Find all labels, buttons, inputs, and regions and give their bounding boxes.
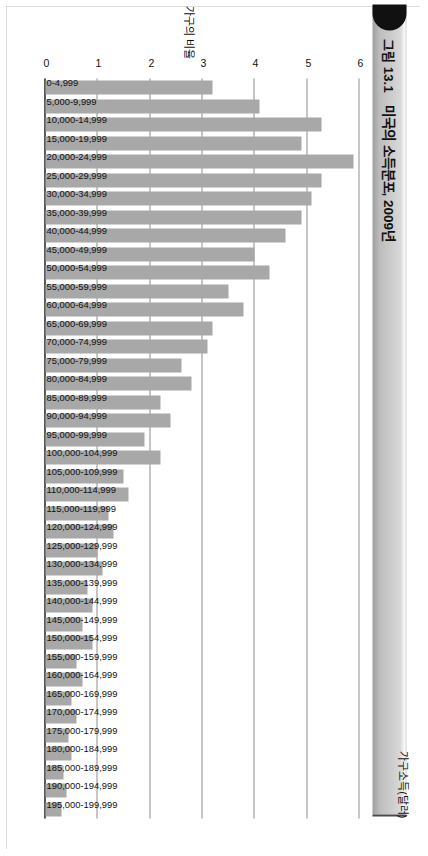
- bar: [45, 709, 76, 723]
- bar-slot: [45, 189, 358, 208]
- bar-slot: [45, 115, 358, 134]
- bar-slot: [45, 522, 358, 541]
- y-axis-title: 가구의 비율: [20, 12, 358, 52]
- bar: [45, 691, 71, 705]
- bar: [45, 284, 228, 298]
- bar-slot: [45, 633, 358, 652]
- bar: [45, 321, 212, 335]
- bar: [45, 173, 321, 187]
- bar-slot: [45, 485, 358, 504]
- bar-slot: [45, 744, 358, 763]
- bar: [45, 154, 353, 168]
- bar: [45, 191, 311, 205]
- bar-slot: [45, 541, 358, 560]
- bar: [45, 598, 92, 612]
- bar-slot: [45, 134, 358, 153]
- bar-slot: [45, 448, 358, 467]
- bar: [45, 765, 63, 779]
- figure-title-cap-icon: [372, 4, 406, 30]
- bar: [45, 228, 285, 242]
- bar-slot: [45, 245, 358, 264]
- bar: [45, 302, 243, 316]
- bar-chart: [44, 78, 358, 818]
- y-axis-title-label: 가구의 비율: [181, 5, 197, 58]
- bar-slot: [45, 800, 358, 819]
- bar: [45, 783, 66, 797]
- figure-page-frame: 그림 13.1 미국의 소득분포, 2009년 가구의 비율 가구소득(달러) …: [6, 6, 420, 849]
- y-axis-tick-label: 0: [43, 57, 49, 69]
- bar: [45, 265, 269, 279]
- y-axis-ticks: 6543210: [20, 78, 44, 818]
- plot-area: 0-4,9995,000-9,99910,000-14,99915,000-19…: [20, 78, 358, 818]
- bar-slot: [45, 319, 358, 338]
- bar: [45, 654, 76, 668]
- bar: [45, 487, 128, 501]
- bar: [45, 580, 87, 594]
- bar: [45, 339, 207, 353]
- bar-slot: [45, 337, 358, 356]
- bar-slot: [45, 356, 358, 375]
- y-axis-tick: 0: [20, 78, 44, 818]
- bar-slot: [45, 504, 358, 523]
- bar-slot: [45, 393, 358, 412]
- bar: [45, 395, 160, 409]
- bar-slot: [45, 652, 358, 671]
- x-axis-title-label: 가구소득(달러): [395, 751, 411, 818]
- bar-slot: [45, 97, 358, 116]
- bar: [45, 543, 97, 557]
- bar: [45, 728, 68, 742]
- y-axis-tick-label: 2: [148, 57, 154, 69]
- y-axis-tick-label: 5: [305, 57, 311, 69]
- bar: [45, 635, 92, 649]
- bar-slot: [45, 263, 358, 282]
- y-axis-tick-label: 3: [200, 57, 206, 69]
- bar-slot: [45, 578, 358, 597]
- bar: [45, 469, 123, 483]
- bar: [45, 210, 301, 224]
- bar-slot: [45, 152, 358, 171]
- bar-slot: [45, 689, 358, 708]
- bar: [45, 524, 113, 538]
- y-axis-tick-label: 4: [252, 57, 258, 69]
- bar-slot: [45, 707, 358, 726]
- bar: [45, 802, 61, 816]
- y-axis-tick-label: 1: [95, 57, 101, 69]
- bar-slot: [45, 282, 358, 301]
- bar-slot: [45, 559, 358, 578]
- x-axis-title: 가구소득(달러): [392, 78, 414, 818]
- bar-slot: [45, 208, 358, 227]
- bar: [45, 450, 160, 464]
- bar: [45, 672, 82, 686]
- bar-slot: [45, 781, 358, 800]
- bar-slot: [45, 430, 358, 449]
- bar-slot: [45, 300, 358, 319]
- bar-slot: [45, 78, 358, 97]
- bar-slot: [45, 411, 358, 430]
- bar-slot: [45, 615, 358, 634]
- bar: [45, 506, 108, 520]
- bar: [45, 376, 191, 390]
- bar: [45, 99, 259, 113]
- y-axis-tick-label: 6: [357, 57, 363, 69]
- bar: [45, 358, 181, 372]
- bar: [45, 136, 301, 150]
- bar-slot: [45, 226, 358, 245]
- bar-slot: [45, 374, 358, 393]
- bar-slot: [45, 171, 358, 190]
- bar: [45, 746, 71, 760]
- bar: [45, 617, 82, 631]
- bar: [45, 561, 102, 575]
- figure-stage: 그림 13.1 미국의 소득분포, 2009년 가구의 비율 가구소득(달러) …: [6, 6, 420, 849]
- bar-slot: [45, 726, 358, 745]
- bar: [45, 432, 144, 446]
- bar-slot: [45, 670, 358, 689]
- bar: [45, 80, 212, 94]
- bar: [45, 413, 170, 427]
- bar: [45, 247, 254, 261]
- bar-slot: [45, 763, 358, 782]
- bar-slot: [45, 467, 358, 486]
- bar: [45, 117, 321, 131]
- bar-slot: [45, 596, 358, 615]
